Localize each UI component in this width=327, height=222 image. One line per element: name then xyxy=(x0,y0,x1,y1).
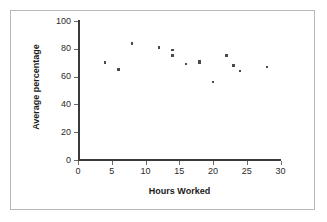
data-point xyxy=(198,61,201,64)
x-axis-title: Hours Worked xyxy=(78,186,281,196)
data-point xyxy=(212,81,215,84)
data-point xyxy=(131,42,134,45)
data-point xyxy=(117,68,120,71)
x-tick-mark xyxy=(281,161,282,165)
y-tick-mark xyxy=(74,104,78,105)
y-tick-mark xyxy=(74,21,78,22)
y-tick-label-text: 0 xyxy=(47,156,71,165)
data-point xyxy=(239,70,242,73)
x-tick-label: 5 xyxy=(100,167,124,176)
y-tick-label-text: 40 xyxy=(47,100,71,109)
y-tick-label-text: 100 xyxy=(47,17,71,26)
screenshot-root: 020406080100 051015202530 Hours Worked A… xyxy=(0,0,327,222)
y-tick-label-text: 20 xyxy=(47,128,71,137)
x-tick-label: 0 xyxy=(66,167,90,176)
data-point xyxy=(225,54,228,57)
y-tick-label: 100 xyxy=(47,17,71,26)
y-tick-mark xyxy=(74,77,78,78)
data-point xyxy=(171,54,174,57)
data-point xyxy=(104,61,107,64)
y-tick-mark xyxy=(74,132,78,133)
x-tick-mark xyxy=(247,161,248,165)
scatter-plot: 020406080100 051015202530 Hours Worked A… xyxy=(0,0,327,222)
x-tick-label: 20 xyxy=(201,167,225,176)
x-tick-mark xyxy=(112,161,113,165)
data-point xyxy=(171,49,174,52)
y-tick-label: 80 xyxy=(47,44,71,53)
y-tick-label: 0 xyxy=(47,156,71,165)
x-tick-mark xyxy=(213,161,214,165)
x-tick-mark xyxy=(179,161,180,165)
y-tick-label: 20 xyxy=(47,128,71,137)
y-axis-line xyxy=(78,20,80,161)
y-tick-label: 40 xyxy=(47,100,71,109)
y-tick-label: 60 xyxy=(47,72,71,81)
data-point xyxy=(185,63,188,66)
x-tick-mark xyxy=(146,161,147,165)
x-tick-label: 10 xyxy=(134,167,158,176)
y-tick-label-text: 80 xyxy=(47,44,71,53)
y-tick-label-text: 60 xyxy=(47,72,71,81)
x-tick-label: 30 xyxy=(269,167,293,176)
x-tick-label: 25 xyxy=(235,167,259,176)
y-tick-mark xyxy=(74,49,78,50)
x-tick-label: 15 xyxy=(167,167,191,176)
data-point xyxy=(232,64,235,67)
x-tick-mark xyxy=(78,161,79,165)
y-axis-title: Average percentage xyxy=(31,27,41,147)
data-point xyxy=(158,46,161,49)
data-point xyxy=(266,66,269,69)
